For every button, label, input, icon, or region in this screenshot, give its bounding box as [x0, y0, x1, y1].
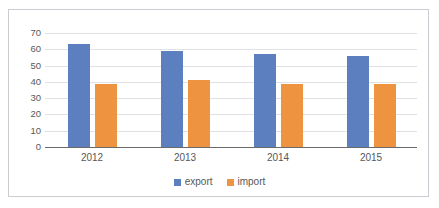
- plot-area: [45, 33, 417, 147]
- y-axis-tick-label: 60: [15, 45, 41, 55]
- y-axis-tick-label: 40: [15, 77, 41, 87]
- x-axis-line: [45, 147, 417, 148]
- y-axis-tick-label: 30: [15, 93, 41, 103]
- legend-swatch-icon: [174, 179, 181, 186]
- legend-item-export[interactable]: export: [174, 177, 213, 187]
- x-axis: 2012 2013 2014 2015: [45, 151, 417, 167]
- x-axis-tick-label: 2015: [323, 151, 419, 165]
- x-axis-tick-label: 2013: [137, 151, 233, 165]
- legend-item-import[interactable]: import: [227, 177, 266, 187]
- y-axis-tick-label: 20: [15, 110, 41, 120]
- bar-export-2013[interactable]: [161, 51, 183, 147]
- legend-label: export: [185, 177, 213, 187]
- bar-export-2012[interactable]: [68, 44, 90, 147]
- bar-import-2012[interactable]: [95, 84, 117, 148]
- bar-import-2014[interactable]: [281, 84, 303, 148]
- bar-export-2015[interactable]: [347, 56, 369, 147]
- legend-label: import: [238, 177, 266, 187]
- bar-group-2012: [45, 33, 138, 147]
- bar-group-2015: [324, 33, 417, 147]
- chart-container: 70 60 50 40 30 20 10 0: [8, 9, 429, 197]
- x-axis-tick-label: 2012: [44, 151, 140, 165]
- y-axis: 70 60 50 40 30 20 10 0: [13, 33, 41, 147]
- bar-export-2014[interactable]: [254, 54, 276, 147]
- legend-swatch-icon: [227, 179, 234, 186]
- bar-group-2014: [231, 33, 324, 147]
- x-axis-tick-label: 2014: [230, 151, 326, 165]
- chart-legend: export import: [9, 174, 430, 190]
- y-axis-tick-label: 70: [15, 28, 41, 38]
- bar-import-2015[interactable]: [374, 84, 396, 148]
- bar-import-2013[interactable]: [188, 80, 210, 147]
- y-axis-tick-label: 50: [15, 61, 41, 71]
- y-axis-tick-label: 10: [15, 126, 41, 136]
- bar-group-2013: [138, 33, 231, 147]
- y-axis-tick-label: 0: [15, 142, 41, 152]
